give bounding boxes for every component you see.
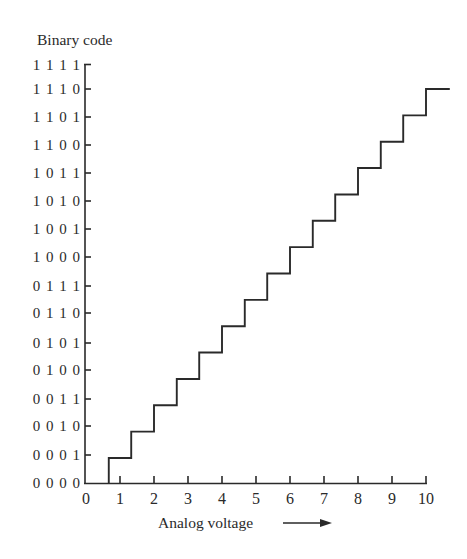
y-tick-label: 0 0 1 1	[33, 391, 81, 407]
y-axis-ticks: 1 1 1 11 1 1 01 1 0 11 1 0 01 0 1 11 0 1…	[33, 57, 91, 491]
x-tick-label: 10	[418, 490, 434, 507]
y-tick-label: 1 0 1 0	[33, 193, 81, 209]
y-axis-title: Binary code	[37, 31, 112, 48]
x-tick-label: 2	[150, 490, 158, 507]
y-tick-label: 1 0 0 0	[33, 249, 81, 265]
y-tick-label: 1 0 1 1	[33, 165, 81, 181]
y-tick-label: 1 1 0 0	[33, 137, 81, 153]
y-tick-label: 1 1 1 0	[33, 81, 81, 97]
y-tick-label: 0 1 1 1	[33, 278, 81, 294]
x-axis-title: Analog voltage	[158, 514, 253, 531]
y-tick-label: 0 1 0 0	[33, 362, 81, 378]
y-tick-label: 1 1 1 1	[33, 57, 81, 73]
y-tick-label: 0 0 1 0	[33, 418, 81, 434]
x-tick-label: 6	[286, 490, 294, 507]
arrow-right-icon	[283, 519, 332, 527]
y-tick-label: 0 0 0 0	[33, 475, 81, 491]
x-tick-label: 5	[252, 490, 260, 507]
y-tick-label: 0 1 1 0	[33, 305, 81, 321]
x-tick-label: 7	[320, 490, 328, 507]
x-tick-label: 8	[354, 490, 362, 507]
x-axis-ticks: 012345678910	[82, 476, 434, 507]
x-tick-label: 3	[184, 490, 192, 507]
y-tick-label: 1 1 0 1	[33, 109, 81, 125]
x-tick-label: 1	[116, 490, 124, 507]
staircase-step-line	[109, 89, 450, 484]
x-tick-label: 4	[218, 490, 226, 507]
x-tick-label: 9	[388, 490, 396, 507]
y-tick-label: 0 1 0 1	[33, 335, 81, 351]
adc-staircase-chart: Binary code 1 1 1 11 1 1 01 1 0 11 1 0 0…	[0, 0, 467, 559]
y-tick-label: 1 0 0 1	[33, 221, 81, 237]
y-tick-label: 0 0 0 1	[33, 447, 81, 463]
x-tick-label: 0	[82, 490, 90, 507]
